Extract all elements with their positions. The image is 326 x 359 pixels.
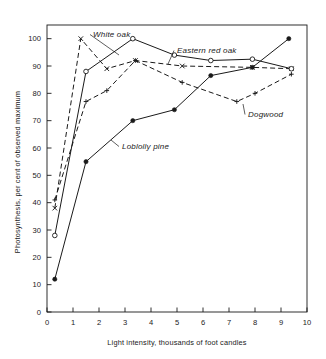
y-tick-label: 70 bbox=[33, 116, 41, 125]
photosynthesis-light-intensity-chart: 012345678910 0102030405060708090100 Whit… bbox=[0, 0, 326, 359]
x-axis-title: Light intensity, thousands of foot candl… bbox=[107, 338, 246, 347]
data-point-loblolly-pine bbox=[209, 73, 213, 77]
y-tick-label: 20 bbox=[33, 253, 41, 262]
data-point-eastern-red-oak bbox=[209, 58, 214, 63]
x-tick-label: 10 bbox=[303, 318, 311, 327]
annotation-label-loblolly-pine: Loblolly pine bbox=[122, 142, 169, 151]
chart-figure: 012345678910 0102030405060708090100 Whit… bbox=[0, 0, 326, 359]
x-tick-label: 0 bbox=[45, 318, 49, 327]
x-tick-label: 4 bbox=[149, 318, 153, 327]
x-tick-label: 2 bbox=[97, 318, 101, 327]
data-point-eastern-red-oak bbox=[250, 57, 255, 62]
x-tick-label: 8 bbox=[253, 318, 257, 327]
chart-background bbox=[0, 0, 326, 359]
annotation-label-dogwood: Dogwood bbox=[248, 110, 284, 119]
y-tick-label: 0 bbox=[37, 308, 41, 317]
data-point-loblolly-pine bbox=[53, 277, 57, 281]
x-tick-label: 7 bbox=[227, 318, 231, 327]
data-point-loblolly-pine bbox=[287, 37, 291, 41]
y-tick-label: 10 bbox=[33, 280, 41, 289]
x-tick-label: 6 bbox=[201, 318, 205, 327]
x-tick-label: 3 bbox=[123, 318, 127, 327]
x-tick-label: 9 bbox=[279, 318, 283, 327]
x-tick-label: 5 bbox=[175, 318, 179, 327]
data-point-eastern-red-oak bbox=[289, 66, 294, 71]
x-tick-label: 1 bbox=[71, 318, 75, 327]
data-point-eastern-red-oak bbox=[84, 69, 89, 74]
y-tick-label: 40 bbox=[33, 198, 41, 207]
data-point-eastern-red-oak bbox=[131, 36, 136, 41]
data-point-loblolly-pine bbox=[131, 119, 135, 123]
y-tick-label: 80 bbox=[33, 89, 41, 98]
y-tick-label: 90 bbox=[33, 62, 41, 71]
data-point-loblolly-pine bbox=[172, 108, 176, 112]
data-point-eastern-red-oak bbox=[53, 233, 58, 238]
annotation-label-white-oak: White oak bbox=[93, 30, 131, 39]
y-tick-label: 50 bbox=[33, 171, 41, 180]
data-point-loblolly-pine bbox=[84, 160, 88, 164]
annotation-label-eastern-red-oak: Eastern red oak bbox=[177, 46, 237, 55]
y-tick-label: 30 bbox=[33, 226, 41, 235]
y-tick-label: 100 bbox=[28, 34, 41, 43]
y-axis-title: Photosynthesis, per cent of observed max… bbox=[13, 91, 22, 253]
data-point-loblolly-pine bbox=[250, 65, 254, 69]
y-tick-label: 60 bbox=[33, 144, 41, 153]
